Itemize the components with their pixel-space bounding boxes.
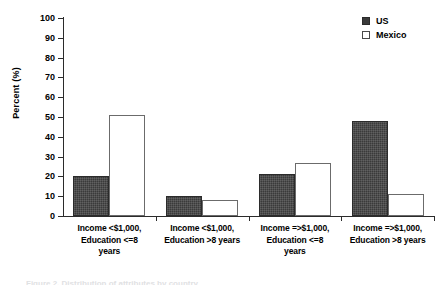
bar-mexico-group-4 bbox=[388, 194, 424, 216]
bar-mexico-group-1 bbox=[109, 115, 145, 216]
x-axis-category-label-line: Education <=8 bbox=[249, 235, 342, 247]
x-axis-tick bbox=[156, 216, 157, 221]
x-axis-category-label-line: Income <$1,000, bbox=[156, 223, 249, 235]
legend-item-mexico: Mexico bbox=[362, 28, 436, 42]
y-axis-tick-label: 10 bbox=[15, 192, 55, 201]
y-axis-tick-label: 30 bbox=[15, 153, 55, 162]
x-axis-category-label-line: Education <=8 bbox=[63, 235, 156, 247]
bar-chart: Percent (%) 0102030405060708090100 Incom… bbox=[0, 0, 444, 285]
legend-item-label: US bbox=[376, 16, 389, 26]
x-axis-category-label: Income <$1,000,Education <=8years bbox=[63, 223, 156, 258]
open-square-icon bbox=[362, 31, 370, 39]
y-axis-tick-label: 50 bbox=[15, 113, 55, 122]
plot-area bbox=[63, 18, 434, 216]
x-axis-category-label-line: Income <$1,000, bbox=[63, 223, 156, 235]
x-axis-tick bbox=[341, 216, 342, 221]
y-axis-tick-label: 100 bbox=[15, 14, 55, 23]
y-axis-tick-label: 90 bbox=[15, 34, 55, 43]
bar-mexico-group-3 bbox=[295, 163, 331, 216]
x-axis-category-label-line: years bbox=[249, 246, 342, 258]
legend-item-label: Mexico bbox=[376, 30, 407, 40]
x-axis-category-label-line: years bbox=[63, 246, 156, 258]
x-axis-category-label-line: Education >8 years bbox=[156, 235, 249, 247]
bar-us-group-3 bbox=[259, 174, 295, 216]
y-axis-tick bbox=[58, 216, 63, 217]
bar-us-group-4 bbox=[352, 121, 388, 216]
x-axis-category-label: Income =>$1,000,Education <=8years bbox=[249, 223, 342, 258]
x-axis-category-label-line: Education >8 years bbox=[341, 235, 434, 247]
bar-us-group-1 bbox=[73, 176, 109, 216]
x-axis-tick bbox=[434, 216, 435, 221]
y-axis-tick-label: 0 bbox=[15, 212, 55, 221]
bar-us-group-2 bbox=[166, 196, 202, 216]
bar-mexico-group-2 bbox=[202, 200, 238, 216]
x-axis-category-label: Income =>$1,000,Education >8 years bbox=[341, 223, 434, 246]
y-axis-tick-label: 40 bbox=[15, 133, 55, 142]
caption-sliver: Figure 2. Distribution of attributes by … bbox=[26, 279, 326, 285]
x-axis-category-label-line: Income =>$1,000, bbox=[341, 223, 434, 235]
y-axis-tick-label: 60 bbox=[15, 93, 55, 102]
legend-item-us: US bbox=[362, 14, 436, 28]
filled-square-icon bbox=[362, 17, 370, 25]
y-axis-tick-label: 20 bbox=[15, 172, 55, 181]
y-axis-tick-label: 70 bbox=[15, 73, 55, 82]
x-axis-category-label-line: Income =>$1,000, bbox=[249, 223, 342, 235]
x-axis-tick bbox=[249, 216, 250, 221]
y-axis-tick-label: 80 bbox=[15, 54, 55, 63]
legend: US Mexico bbox=[362, 14, 436, 42]
x-axis-category-label: Income <$1,000,Education >8 years bbox=[156, 223, 249, 246]
